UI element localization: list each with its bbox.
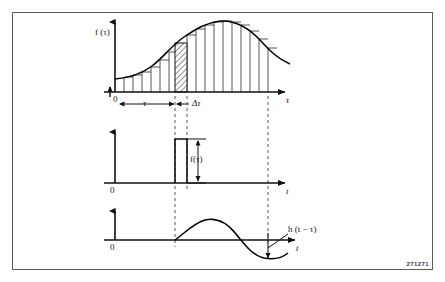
bottom-origin-label: 0 [110, 243, 115, 252]
middle-origin-label: 0 [110, 186, 115, 195]
tau-interval-label: τ [143, 99, 146, 108]
pulse-amplitude-label: f(τ) [190, 155, 203, 164]
top-x-axis-label: τ [286, 96, 289, 105]
figure-id-code: 271271 [407, 261, 429, 267]
top-y-axis-label: f (τ) [95, 28, 110, 37]
figure-frame [12, 12, 433, 270]
delta-tau-label: Δτ [192, 99, 201, 108]
middle-x-axis-label: t [286, 187, 289, 196]
figure-page: f (τ) τ 0 τ Δτ 0 t f(τ) 0 t h (t − τ) 27… [0, 0, 445, 282]
h-response-label: h (t − τ) [288, 225, 316, 234]
bottom-x-axis-label: t [296, 244, 299, 253]
top-origin-label: 0 [113, 95, 118, 104]
